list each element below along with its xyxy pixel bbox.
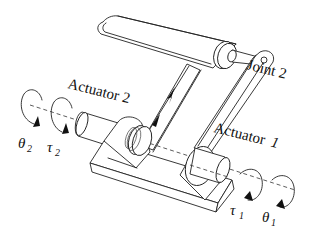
theta-1-label: θ 1 — [262, 209, 276, 228]
svg-text:1: 1 — [271, 217, 276, 228]
svg-text:2: 2 — [27, 143, 32, 154]
tau-1-label: τ 1 — [230, 202, 244, 221]
svg-text:τ: τ — [47, 139, 53, 155]
theta-1-rotation-icon — [272, 176, 294, 209]
theta-2-rotation-icon — [21, 90, 42, 127]
tau-2-rotation-icon — [51, 98, 72, 134]
actuator-1-number: 1 — [270, 134, 281, 151]
svg-text:θ: θ — [18, 135, 26, 151]
theta-2-label: θ 2 — [18, 135, 32, 154]
svg-text:2: 2 — [55, 147, 60, 158]
svg-text:τ: τ — [230, 202, 236, 218]
tau-1-rotation-icon — [240, 169, 262, 201]
svg-text:1: 1 — [239, 210, 244, 221]
two-joint-actuator-diagram: Actuator 2 Joint 2 Actuator 1 θ 2 τ 2 τ … — [0, 0, 310, 235]
svg-text:θ: θ — [262, 209, 270, 225]
tau-2-label: τ 2 — [47, 139, 60, 158]
upper-cylinder — [98, 16, 264, 72]
actuator-1-word: Actuator — [212, 119, 267, 147]
actuator-1-label: Actuator 1 — [212, 119, 280, 151]
actuator-2-label: Actuator 2 — [66, 75, 132, 106]
